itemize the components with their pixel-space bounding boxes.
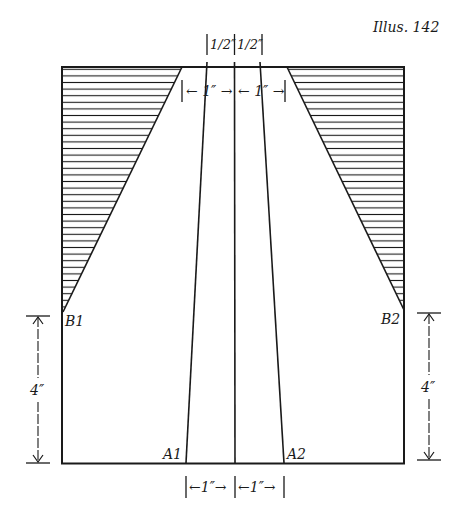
dim-top-half-left: 1/2″ bbox=[210, 38, 236, 51]
point-label-b2: B2 bbox=[381, 312, 400, 326]
dim-right-height: 4″ bbox=[421, 380, 435, 394]
dim-top-inch-right: ← 1″ → bbox=[238, 84, 285, 98]
dim-left-height: 4″ bbox=[30, 383, 44, 397]
dart-line-right bbox=[260, 62, 284, 463]
point-label-b1: B1 bbox=[65, 314, 84, 328]
dim-bottom-inch-right: ←1″→ bbox=[238, 480, 276, 494]
dim-bottom-inch-left: ←1″→ bbox=[189, 480, 227, 494]
dart-line-left bbox=[186, 62, 207, 463]
point-label-a1: A1 bbox=[163, 447, 182, 461]
figure-title: Illus. 142 bbox=[373, 20, 439, 34]
dim-top-half-right: 1/2″ bbox=[237, 38, 263, 51]
dim-top-inch-left: ← 1″ → bbox=[186, 84, 233, 98]
center-line bbox=[235, 62, 236, 463]
point-label-a2: A2 bbox=[287, 447, 306, 461]
pattern-diagram bbox=[0, 0, 467, 519]
